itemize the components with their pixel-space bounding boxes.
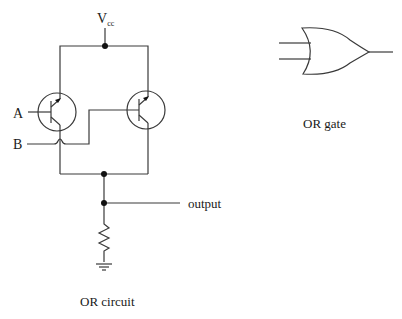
input-a-label: A bbox=[13, 106, 24, 121]
ground-icon bbox=[96, 264, 112, 270]
vcc-node bbox=[102, 43, 108, 49]
resistor bbox=[99, 220, 109, 262]
circuit-caption: OR circuit bbox=[80, 294, 135, 309]
diagram-canvas: Vcc A B bbox=[0, 0, 402, 319]
vcc-label: Vcc bbox=[97, 11, 115, 28]
output-label: output bbox=[188, 196, 222, 211]
or-gate-symbol bbox=[279, 28, 393, 75]
transistor-b bbox=[27, 91, 165, 144]
circuit-wiring bbox=[60, 28, 148, 94]
output-node bbox=[101, 200, 107, 206]
collector-node bbox=[101, 171, 107, 177]
gate-caption: OR gate bbox=[303, 116, 346, 131]
input-b-label: B bbox=[13, 137, 22, 152]
transistor-a bbox=[28, 93, 76, 134]
circuit-bottom-rail bbox=[60, 132, 180, 220]
